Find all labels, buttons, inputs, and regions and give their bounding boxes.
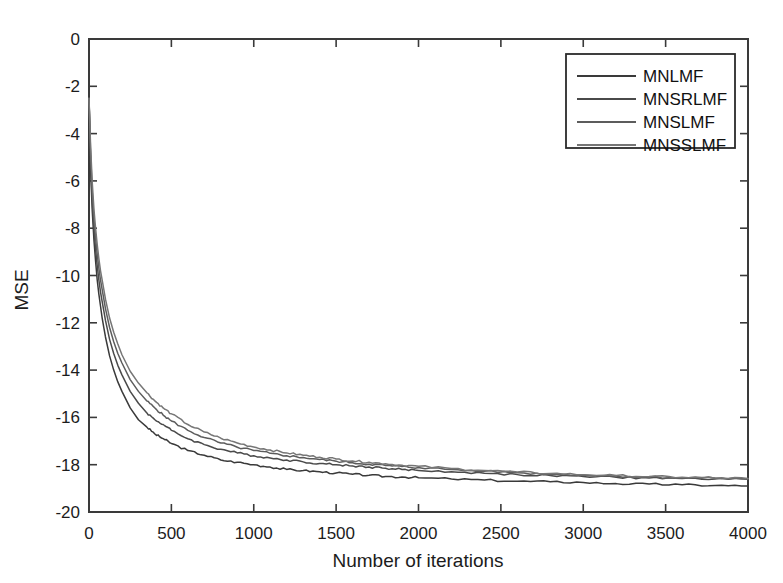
x-tick-label: 4000 bbox=[729, 524, 767, 543]
chart-legend[interactable]: MNLMFMNSRLMFMNSLMFMNSSLMF bbox=[566, 54, 735, 155]
y-tick-label: -6 bbox=[65, 172, 80, 191]
y-tick-label: 0 bbox=[71, 30, 80, 49]
legend-label-mnsslmf[interactable]: MNSSLMF bbox=[643, 136, 726, 155]
x-tick-label: 2500 bbox=[482, 524, 520, 543]
x-axis-title: Number of iterations bbox=[332, 550, 503, 571]
x-tick-label: 1000 bbox=[235, 524, 273, 543]
y-tick-label: -18 bbox=[55, 456, 80, 475]
y-tick-label: -4 bbox=[65, 125, 80, 144]
x-tick-label: 0 bbox=[84, 524, 93, 543]
y-tick-label: -8 bbox=[65, 219, 80, 238]
chart-figure: 0-2-4-6-8-10-12-14-16-18-20 050010001500… bbox=[0, 0, 783, 583]
x-tick-label: 2000 bbox=[400, 524, 438, 543]
series-line-mnslmf bbox=[89, 98, 748, 479]
chart-canvas: 0-2-4-6-8-10-12-14-16-18-20 050010001500… bbox=[0, 0, 783, 583]
series-line-mnsrlmf bbox=[89, 98, 748, 479]
y-tick-label: -14 bbox=[55, 361, 80, 380]
x-axis-tick-labels: 05001000150020002500300035004000 bbox=[84, 524, 767, 543]
y-tick-label: -16 bbox=[55, 408, 80, 427]
x-tick-label: 500 bbox=[157, 524, 185, 543]
y-tick-label: -10 bbox=[55, 267, 80, 286]
y-tick-label: -2 bbox=[65, 77, 80, 96]
legend-label-mnslmf[interactable]: MNSLMF bbox=[643, 113, 715, 132]
x-tick-label: 3500 bbox=[647, 524, 685, 543]
series-line-mnlmf bbox=[89, 98, 748, 486]
legend-label-mnlmf[interactable]: MNLMF bbox=[643, 67, 703, 86]
legend-label-mnsrlmf[interactable]: MNSRLMF bbox=[643, 90, 727, 109]
y-tick-label: -12 bbox=[55, 314, 80, 333]
data-series-group bbox=[89, 98, 748, 486]
x-tick-label: 1500 bbox=[317, 524, 355, 543]
y-axis-tick-labels: 0-2-4-6-8-10-12-14-16-18-20 bbox=[55, 30, 80, 522]
y-tick-label: -20 bbox=[55, 503, 80, 522]
x-tick-label: 3000 bbox=[564, 524, 602, 543]
y-axis-title: MSE bbox=[11, 269, 32, 310]
series-line-mnsslmf bbox=[89, 98, 748, 478]
